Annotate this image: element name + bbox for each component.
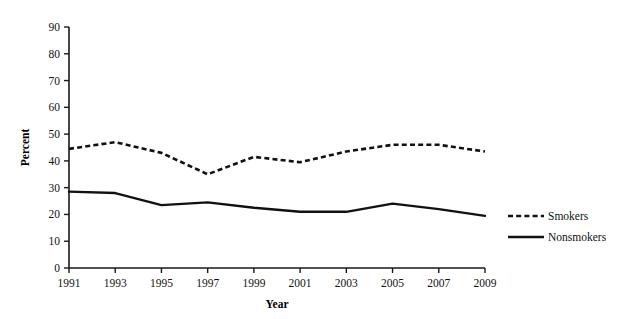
chart-canvas: 0102030405060708090 19911993199519971999…	[0, 0, 625, 319]
x-tick-label: 1991	[58, 277, 81, 289]
x-axis-title: Year	[266, 298, 289, 310]
x-tick-label: 1997	[196, 277, 219, 289]
legend-label-nonsmokers: Nonsmokers	[548, 231, 607, 243]
y-tick-label: 40	[49, 155, 61, 167]
x-tick-label: 1995	[150, 277, 173, 289]
legend-label-smokers: Smokers	[548, 210, 589, 222]
y-tick-label: 20	[49, 208, 61, 220]
axis-lines	[69, 27, 485, 268]
y-tick-label: 0	[54, 262, 60, 274]
x-tick-label: 2005	[381, 277, 404, 289]
y-tick-label: 90	[49, 21, 61, 33]
series-line-smokers	[69, 142, 485, 174]
y-tick-label: 10	[49, 235, 61, 247]
x-tick-label: 2001	[289, 277, 312, 289]
chart-legend: SmokersNonsmokers	[508, 210, 607, 243]
line-chart: 0102030405060708090 19911993199519971999…	[0, 0, 625, 319]
y-tick-label: 30	[49, 182, 61, 194]
series-line-nonsmokers	[69, 192, 485, 216]
x-tick-label: 2007	[427, 277, 450, 289]
y-tick-label: 70	[49, 75, 61, 87]
x-tick-label: 1993	[104, 277, 127, 289]
x-axis-ticks: 1991199319951997199920012003200520072009	[58, 268, 497, 289]
x-tick-label: 2003	[335, 277, 358, 289]
y-axis-title: Percent	[19, 129, 31, 167]
y-tick-label: 60	[49, 101, 61, 113]
x-tick-label: 1999	[242, 277, 265, 289]
y-tick-label: 80	[49, 48, 61, 60]
y-axis-ticks: 0102030405060708090	[49, 21, 70, 274]
x-tick-label: 2009	[474, 277, 497, 289]
y-tick-label: 50	[49, 128, 61, 140]
